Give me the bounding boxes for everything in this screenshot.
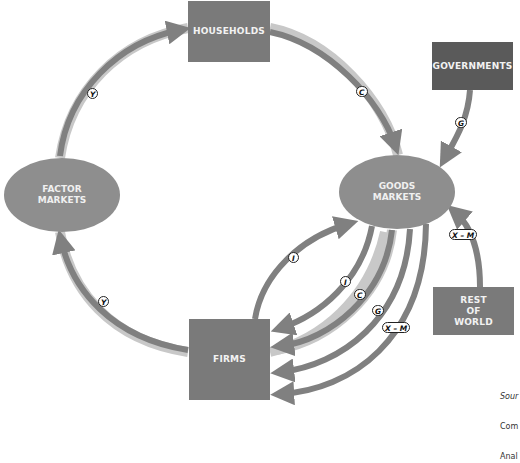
flow-label-xm-right: X – M <box>449 229 477 240</box>
halo-y-top <box>60 28 188 158</box>
firms-node: FIRMS <box>189 319 270 400</box>
source-line-3: Anal <box>500 452 518 462</box>
rest-of-world-label-2: OF <box>454 306 493 317</box>
factor-markets-label-2: MARKETS <box>38 195 87 206</box>
flow-label-c-top: C <box>356 86 368 97</box>
arrow-i-to-goods <box>255 224 348 319</box>
goods-markets-label-2: MARKETS <box>373 192 422 203</box>
halo-c-top <box>270 28 398 155</box>
goods-markets-label-1: GOODS <box>373 181 422 192</box>
rest-of-world-label-3: WORLD <box>454 317 493 328</box>
arrow-c-to-goods <box>270 32 395 145</box>
source-line-1: Sour <box>500 392 518 402</box>
factor-markets-node: FACTOR MARKETS <box>4 158 120 232</box>
flow-label-i-outer: I <box>288 252 299 263</box>
rest-of-world-label-1: REST <box>454 295 493 306</box>
households-node: HOUSEHOLDS <box>188 1 270 62</box>
flow-label-xm-bottom: X – M <box>382 322 410 333</box>
source-line-2: Com <box>500 422 518 432</box>
arrow-i-to-firms <box>281 226 372 328</box>
governments-node: GOVERNMENTS <box>432 42 513 90</box>
factor-markets-label-1: FACTOR <box>38 184 87 195</box>
flow-label-c-bottom: C <box>354 289 366 300</box>
goods-markets-node: GOODS MARKETS <box>339 155 455 229</box>
source-note: Sour Com Anal <box>500 372 518 463</box>
arrow-y-to-households <box>60 30 180 156</box>
rest-of-world-node: REST OF WORLD <box>433 287 514 335</box>
firms-label: FIRMS <box>213 354 246 365</box>
arrow-xm-to-goods <box>455 212 480 287</box>
flow-label-i-inner: I <box>340 276 351 287</box>
halo-y-bottom <box>60 232 188 352</box>
flow-label-g-top: G <box>455 117 467 128</box>
governments-label: GOVERNMENTS <box>433 61 513 72</box>
flow-label-g-bottom: G <box>372 305 384 316</box>
households-label: HOUSEHOLDS <box>193 26 265 37</box>
